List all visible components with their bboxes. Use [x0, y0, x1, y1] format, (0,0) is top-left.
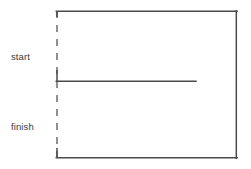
label-finish: finish [11, 122, 34, 132]
diagram-graphics [0, 0, 251, 169]
label-start: start [11, 52, 30, 62]
diagram-canvas: start finish [0, 0, 251, 169]
